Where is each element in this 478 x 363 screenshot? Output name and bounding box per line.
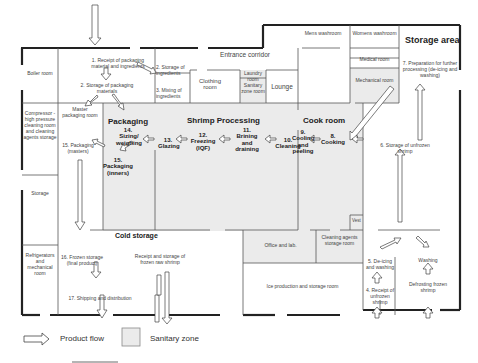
packaging-title: Packaging [108,117,148,126]
entrance-corridor-label: Entrance corridor [205,52,285,58]
step-16-label: 16. Frozen storage (final product) [60,254,104,266]
ice-room-label: Ice production and storage room [260,283,345,289]
defrosting-label: Defrosting frozen shrimp [405,281,451,293]
master-packaging-room-label: Master packaging room [62,106,98,118]
boiler-room-label: Boiler room [24,70,56,76]
shrimp-processing-title: Shrimp Processing [187,116,260,125]
step-2-ingredients-label: 2. Storage of ingredients [156,64,190,76]
lounge-label: Lounge [268,84,296,90]
womens-washroom-label: Womens washroom [352,30,397,36]
step-14-label: Sizing/ weighing [116,133,142,146]
step-6-label: 6. Storage of unfrozen shrimp [375,142,435,154]
compressor-room-label: Compressor - high pressure cleaning room… [23,110,57,140]
office-lab-label: Office and lab. [248,242,313,248]
refrigerators-room-label: Refrigerators and mechanical room [23,252,57,276]
washing-label: Washing [410,257,446,263]
legend-product-flow-label: Product flow [60,334,104,343]
laundry-room-label: Laundry room [241,70,265,82]
cook-room-title: Cook room [303,116,345,125]
step-15-masters-label: 15. Packaging (masters) [60,142,96,154]
storage-label: Storage [24,190,56,196]
step-11-label: Brining and draining [231,133,263,153]
step-7-label: 7. Preparation for further processing (d… [402,60,458,78]
cleaning-agents-room-label: Cleaning agents storage room [318,234,361,246]
cold-storage-title: Cold storage [115,232,158,239]
step-17-label: 17. Shipping and distribution [60,295,140,301]
step-15-inners-label: Packaging (inners) [100,163,136,176]
step-5-label: 5. De-icing and washing [365,258,395,270]
step-3-label: 3. Mixing of ingredients [156,87,190,99]
clothing-room-label: Clothing room [192,78,228,90]
mechanical-room-label: Mechanical room [352,77,397,83]
step-12-label: Freezing (IQF) [188,138,218,151]
medical-room-label: Medical room [352,56,397,62]
legend-sanitary-zone-label: Sanitary zone [150,334,199,343]
step-8-label: Cooking [318,139,348,146]
step-4-label: 4. Receipt of unfrozen shrimp [365,287,395,305]
vest-label: Vest [350,218,363,224]
sanitary-zone-room-label: Sanitary zone room [241,82,265,94]
step-9-label: Cooling and peeling [292,135,314,155]
mens-washroom-label: Mens washroom [303,30,343,36]
receipt-frozen-label: Receipt and storage of frozen raw shrimp [130,253,190,265]
step-2-packaging-label: 2. Storage of packaging materials [75,82,139,94]
storage-area-title: Storage area [405,35,460,45]
step-13-label: Glazing [158,143,178,150]
step-1-label: 1. Receipt of packaging material and ing… [88,57,148,69]
